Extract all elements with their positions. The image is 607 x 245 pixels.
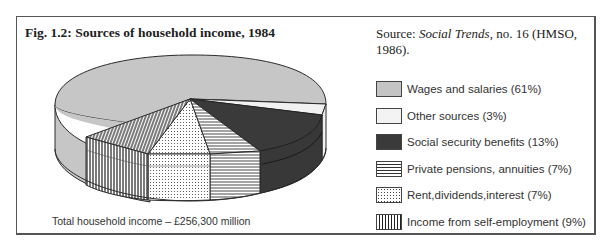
swatch-dots-icon (376, 187, 402, 203)
legend-item-social: Social security benefits (13%) (376, 129, 586, 156)
legend-label: Wages and salaries (61%) (407, 83, 541, 95)
legend-label: Social security benefits (13%) (407, 136, 558, 148)
swatch-white-icon (376, 108, 402, 124)
slice-pensions-front (210, 151, 260, 200)
total-income-note: Total household income – £256,300 millio… (52, 215, 250, 227)
legend-label: Rent,dividends,interest (7%) (407, 189, 551, 201)
legend-item-other: Other sources (3%) (376, 103, 586, 130)
legend-label: Private pensions, annuities (7%) (407, 163, 572, 175)
legend-item-wages: Wages and salaries (61%) (376, 76, 586, 103)
slice-rent-front (148, 154, 210, 201)
legend-item-rent: Rent,dividends,interest (7%) (376, 182, 586, 209)
legend-item-pensions: Private pensions, annuities (7%) (376, 156, 586, 183)
swatch-grey-icon (376, 81, 402, 97)
swatch-horizontal-lines-icon (376, 161, 402, 177)
legend: Wages and salaries (61%) Other sources (… (376, 76, 586, 235)
source-publication: Social Trends (419, 26, 490, 41)
legend-item-selfemp: Income from self-employment (9%) (376, 209, 586, 236)
source-prefix: Source: (376, 26, 419, 41)
pie-chart-3d (50, 52, 330, 217)
figure-title: Fig. 1.2: Sources of household income, 1… (25, 25, 275, 41)
swatch-vertical-lines-icon (376, 214, 402, 230)
legend-label: Other sources (3%) (407, 110, 507, 122)
swatch-dark-icon (376, 134, 402, 150)
source-citation: Source: Social Trends, no. 16 (HMSO, 198… (376, 26, 607, 58)
legend-label: Income from self-employment (9%) (407, 216, 586, 228)
